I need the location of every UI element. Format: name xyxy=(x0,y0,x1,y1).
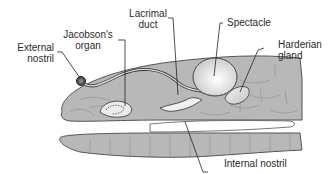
label-internal-nostril: Internal nostril xyxy=(224,158,287,169)
mouth-tongue xyxy=(150,120,295,132)
label-external-nostril: External nostril xyxy=(6,42,54,64)
label-jacobsons-organ: Jacobson's organ xyxy=(60,29,116,51)
label-harderian-gland: Harderian gland xyxy=(278,39,322,61)
upper-jaw xyxy=(61,56,302,121)
label-spectacle: Spectacle xyxy=(227,17,271,28)
lower-jaw xyxy=(60,133,302,157)
label-lacrimal-duct: Lacrimal duct xyxy=(126,8,170,30)
